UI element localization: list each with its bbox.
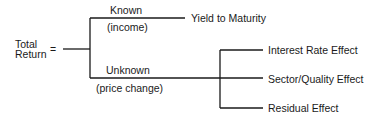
unknown-sublabel: (price change): [96, 82, 163, 94]
total-return-diagram: Total Return = Known (income) Yield to M…: [0, 0, 381, 118]
effect-label-sector-quality: Sector/Quality Effect: [268, 73, 364, 85]
effect-label-residual: Residual Effect: [268, 102, 339, 114]
unknown-label: Unknown: [106, 64, 150, 76]
equals-sign: =: [50, 43, 56, 55]
known-label: Known: [110, 4, 142, 16]
root-label-return: Return: [15, 48, 47, 60]
known-sublabel: (income): [107, 21, 148, 33]
effect-label-interest-rate: Interest Rate Effect: [268, 44, 358, 56]
known-result-label: Yield to Maturity: [191, 12, 267, 24]
